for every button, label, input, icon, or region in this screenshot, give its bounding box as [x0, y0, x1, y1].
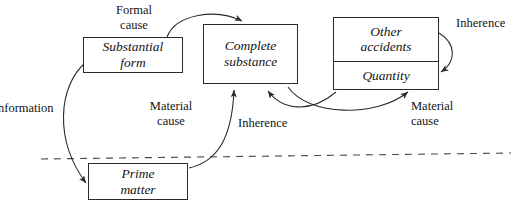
node-complete-substance-line2: substance — [224, 54, 277, 70]
node-other-accidents-line1: Other — [370, 24, 402, 40]
label-information-line1: nformation — [0, 101, 54, 116]
node-prime-matter-line1: Prime — [122, 166, 155, 182]
edge-inherence-top-right — [439, 33, 452, 72]
substantial-accidental-divider-line — [41, 153, 511, 159]
label-inherence-top-right-line1: Inherence — [456, 16, 505, 31]
node-substantial-form-line1: Substantial — [103, 39, 164, 55]
label-inherence-center-line1: Inherence — [238, 116, 287, 131]
diagram-canvas: Substantial form Complete substance Othe… — [0, 0, 515, 206]
node-substantial-form-line2: form — [120, 55, 146, 71]
label-material-cause-right-line2: cause — [411, 114, 453, 129]
node-prime-matter[interactable]: Prime matter — [88, 163, 188, 200]
node-complete-substance-line1: Complete — [225, 38, 277, 54]
node-complete-substance[interactable]: Complete substance — [203, 24, 298, 84]
label-formal-cause-line2: cause — [103, 18, 165, 33]
label-material-cause-left: Material cause — [140, 99, 202, 130]
label-inherence-center: Inherence — [238, 116, 287, 131]
label-inherence-top-right: Inherence — [456, 16, 505, 31]
node-quantity[interactable]: Quantity — [334, 62, 438, 89]
label-formal-cause: Formal cause — [103, 3, 165, 34]
label-information: nformation — [0, 101, 54, 116]
node-substantial-form[interactable]: Substantial form — [83, 37, 183, 73]
label-material-cause-right: Material cause — [411, 99, 453, 130]
edge-information — [63, 62, 86, 183]
node-other-accidents[interactable]: Other accidents — [334, 18, 438, 62]
node-quantity-line1: Quantity — [362, 68, 409, 84]
label-material-cause-left-line1: Material — [140, 99, 202, 114]
node-other-accidents-line2: accidents — [361, 39, 412, 55]
node-prime-matter-line2: matter — [120, 182, 155, 198]
label-material-cause-right-line1: Material — [411, 99, 453, 114]
node-accidents-group[interactable]: Other accidents Quantity — [333, 17, 439, 90]
label-material-cause-left-line2: cause — [140, 114, 202, 129]
label-formal-cause-line1: Formal — [103, 3, 165, 18]
